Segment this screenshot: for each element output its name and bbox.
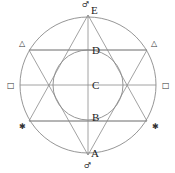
point-label-d: D [92,44,100,56]
point-label-b: B [92,111,99,123]
mars-symbol-top-icon: ♂ [82,0,89,9]
star-symbol-right-icon: ✱ [152,122,159,131]
star-symbol-left-icon: ✱ [19,122,26,131]
point-label-e: E [91,4,98,16]
triangle-symbol-left-icon: △ [19,39,26,48]
point-label-a: A [91,147,99,159]
square-symbol-left-icon: □ [7,81,15,90]
mars-symbol-bottom-icon: ♂ [84,161,91,170]
triangle-symbol-right-icon: △ [151,39,158,48]
point-label-c: C [92,79,99,91]
square-symbol-right-icon: □ [162,81,170,90]
hexagram-diagram: E D C B A ♂ ♂ △ △ □ □ ✱ ✱ [0,0,175,173]
